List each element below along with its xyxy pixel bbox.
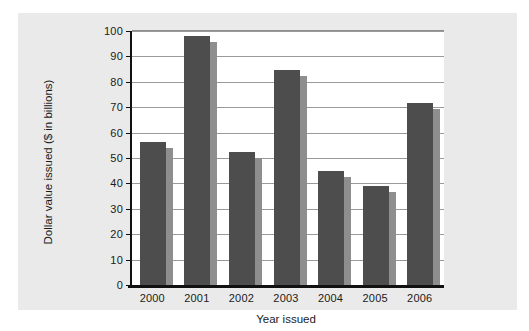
y-axis-title: Dollar value issued ($ in billions) <box>42 79 54 244</box>
y-axis-tick <box>126 234 131 235</box>
y-axis-tick-label: 10 <box>110 254 123 266</box>
y-axis-tick <box>126 82 131 83</box>
x-axis-tick-label: 2002 <box>219 292 263 304</box>
bar-shadow <box>255 158 262 285</box>
bar-shadow <box>433 109 440 285</box>
bar[interactable] <box>184 36 210 285</box>
y-axis-tick-label: 70 <box>110 101 123 113</box>
x-axis-tick-label: 2001 <box>175 292 219 304</box>
gridline <box>132 56 444 57</box>
x-axis-tick-label: 2004 <box>309 292 353 304</box>
y-axis-tick <box>126 158 131 159</box>
x-axis-tick-label: 2005 <box>353 292 397 304</box>
bar[interactable] <box>229 152 255 285</box>
bar-shadow <box>166 148 173 286</box>
bar[interactable] <box>318 171 344 285</box>
bar[interactable] <box>140 142 166 286</box>
y-axis-tick-label: 0 <box>117 279 123 291</box>
bar[interactable] <box>363 186 389 285</box>
y-axis-tick-label: 90 <box>110 50 123 62</box>
y-axis-tick <box>126 133 131 134</box>
y-axis-tick-label: 40 <box>110 177 123 189</box>
y-axis-tick-label: 60 <box>110 127 123 139</box>
y-axis-tick <box>126 260 131 261</box>
bar-shadow <box>300 76 307 285</box>
plot-area: 0102030405060708090100 <box>130 31 444 285</box>
y-axis-tick <box>126 56 131 57</box>
gridline <box>132 31 444 32</box>
bar-shadow <box>210 42 217 285</box>
y-axis-tick-label: 50 <box>110 152 123 164</box>
x-axis-tick-label: 2006 <box>398 292 442 304</box>
bar-shadow <box>389 192 396 285</box>
x-axis-tick-label: 2000 <box>130 292 174 304</box>
y-axis-tick <box>126 31 131 32</box>
y-axis-tick-label: 20 <box>110 228 123 240</box>
y-axis-tick <box>126 183 131 184</box>
y-axis-tick-label: 100 <box>104 25 123 37</box>
y-axis-tick <box>126 209 131 210</box>
y-axis-tick-label: 30 <box>110 203 123 215</box>
figure-panel: 0102030405060708090100 20002001200220032… <box>18 13 517 310</box>
y-axis-tick-label: 80 <box>110 76 123 88</box>
x-axis-line <box>128 285 444 288</box>
bar-shadow <box>344 177 351 285</box>
bar[interactable] <box>274 70 300 285</box>
x-axis-title: Year issued <box>130 313 442 325</box>
y-axis-tick <box>126 107 131 108</box>
bar[interactable] <box>407 103 433 285</box>
x-axis-tick-label: 2003 <box>264 292 308 304</box>
